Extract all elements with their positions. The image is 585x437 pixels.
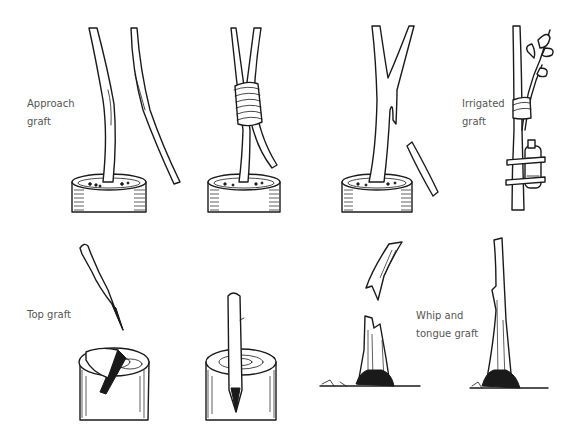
binding-tie-icon [234,82,262,125]
whip-and-tongue-step2-illustration [470,238,548,388]
top-graft-step2-illustration [206,293,276,420]
illustrations [0,0,585,437]
grafting-diagram: Approach graft Irrigated graft Top graft… [0,0,585,437]
approach-graft-step1-illustration [72,28,180,212]
approach-graft-step2-illustration [208,28,280,212]
whip-and-tongue-step1-illustration [320,242,420,386]
approach-graft-step3-illustration [342,26,438,212]
leaf-icon [527,34,553,76]
irrigated-graft-illustration [506,26,553,210]
top-graft-step1-illustration [79,244,149,420]
